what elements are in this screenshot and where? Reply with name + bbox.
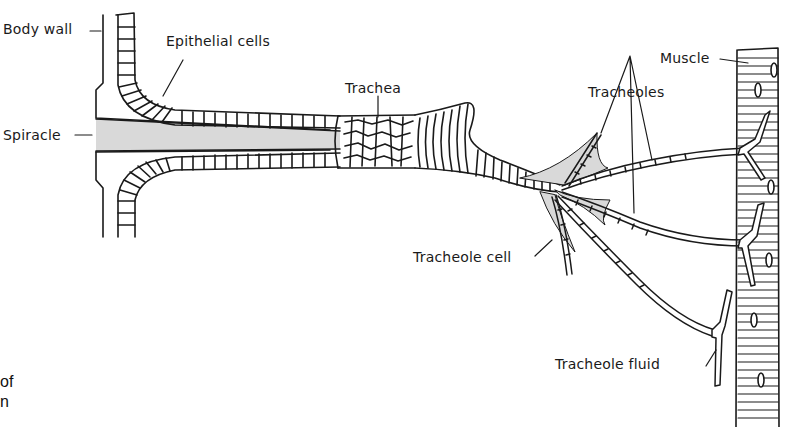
caption-fragment-line-1: of [0,373,13,391]
leader-epithelial-cells [163,60,183,96]
label-body-wall: Body wall [3,21,72,37]
leader-tracheole-fluid [706,350,716,366]
label-muscle: Muscle [660,50,710,66]
label-tracheole-fluid: Tracheole fluid [555,356,660,372]
leader-tracheole-cell [535,240,552,256]
muscle-nucleus [771,63,777,77]
leader-muscle [720,59,748,63]
label-tracheoles: Tracheoles [588,84,664,100]
label-spiracle: Spiracle [3,127,61,143]
upper-epithelium [116,13,340,128]
leader-tracheoles [601,56,652,213]
label-epithelial-cells: Epithelial cells [166,33,270,49]
leader-lines [75,31,748,366]
tracheoles [552,133,745,336]
label-trachea: Trachea [345,80,401,96]
muscle-fibre [712,48,779,427]
label-tracheole-cell: Tracheole cell [413,249,511,265]
caption-fragment-line-2: n [0,393,9,411]
lower-epithelium [118,153,340,237]
trachea-cells [335,115,415,168]
